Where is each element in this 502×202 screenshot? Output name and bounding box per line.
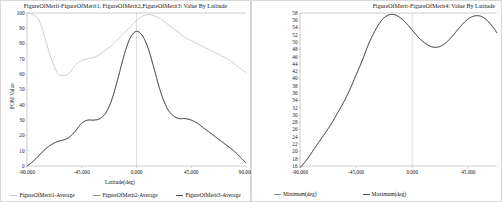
svg-text:0: 0 bbox=[22, 163, 25, 169]
legend-right: Minimum(deg) Maximum(deg) bbox=[252, 191, 502, 197]
svg-text:45.000: 45.000 bbox=[461, 169, 476, 175]
svg-text:30: 30 bbox=[19, 117, 25, 123]
legend-label: FigureOfMerit2-Average bbox=[102, 192, 157, 198]
legend-item[interactable]: FigureOfMerit3-Average bbox=[176, 192, 240, 198]
legend-label: Maximum(deg) bbox=[372, 191, 407, 197]
svg-text:16: 16 bbox=[292, 163, 298, 169]
chart-panel-right: FigureOfMerit-FigureOfMerit4: Value By L… bbox=[251, 0, 502, 202]
svg-text:22: 22 bbox=[292, 141, 298, 147]
dual-chart-view: FigureOfMerit-FigureOfMerit1, FigureOfMe… bbox=[0, 0, 502, 202]
svg-text:24: 24 bbox=[292, 134, 298, 140]
legend-item[interactable]: Minimum(deg) bbox=[274, 191, 317, 197]
y-axis-label-left: FOM Value bbox=[9, 83, 15, 109]
svg-text:40: 40 bbox=[19, 102, 25, 108]
svg-text:0.000: 0.000 bbox=[406, 169, 418, 175]
svg-text:38: 38 bbox=[292, 83, 298, 89]
svg-text:40: 40 bbox=[292, 75, 298, 81]
svg-text:48: 48 bbox=[292, 46, 298, 52]
svg-text:50: 50 bbox=[19, 86, 25, 92]
plot-svg-left: 0102030405060708090100-90.000-45.0000.00… bbox=[1, 1, 252, 202]
svg-text:44: 44 bbox=[292, 61, 298, 67]
svg-text:-45.000: -45.000 bbox=[348, 169, 364, 175]
svg-text:45.000: 45.000 bbox=[184, 169, 199, 175]
svg-text:50: 50 bbox=[292, 39, 298, 45]
svg-text:32: 32 bbox=[292, 105, 298, 111]
svg-text:34: 34 bbox=[292, 97, 298, 103]
legend-label: FigureOfMerit3-Average bbox=[185, 192, 240, 198]
plot-area-right: 1618202224262830323436384042444648505254… bbox=[252, 1, 501, 201]
svg-text:-45.000: -45.000 bbox=[74, 169, 90, 175]
legend-item[interactable]: FigureOfMerit1-Average bbox=[10, 192, 74, 198]
svg-text:18: 18 bbox=[292, 156, 298, 162]
legend-swatch-icon bbox=[363, 194, 370, 195]
legend-swatch-icon bbox=[93, 195, 100, 196]
svg-text:-90.000: -90.000 bbox=[292, 169, 308, 175]
svg-text:20: 20 bbox=[19, 132, 25, 138]
svg-text:-90.000: -90.000 bbox=[19, 169, 35, 175]
legend-swatch-icon bbox=[10, 195, 17, 196]
svg-text:28: 28 bbox=[292, 119, 298, 125]
svg-text:10: 10 bbox=[19, 148, 25, 154]
svg-text:30: 30 bbox=[292, 112, 298, 118]
svg-text:36: 36 bbox=[292, 90, 298, 96]
legend-label: FigureOfMerit1-Average bbox=[19, 192, 74, 198]
legend-swatch-icon bbox=[274, 194, 281, 195]
plot-area-left: 0102030405060708090100-90.000-45.0000.00… bbox=[1, 1, 250, 201]
svg-text:46: 46 bbox=[292, 54, 298, 60]
svg-text:20: 20 bbox=[292, 148, 298, 154]
svg-text:52: 52 bbox=[292, 32, 298, 38]
svg-text:58: 58 bbox=[292, 10, 298, 16]
svg-text:54: 54 bbox=[292, 24, 298, 30]
svg-text:90: 90 bbox=[19, 25, 25, 31]
legend-swatch-icon bbox=[176, 195, 183, 196]
chart-panel-left: FigureOfMerit-FigureOfMerit1, FigureOfMe… bbox=[0, 0, 251, 202]
plot-svg-right: 1618202224262830323436384042444648505254… bbox=[252, 1, 502, 202]
svg-text:56: 56 bbox=[292, 17, 298, 23]
legend-left: FigureOfMerit1-Average FigureOfMerit2-Av… bbox=[1, 192, 250, 198]
x-axis-label-left: Latitude(deg) bbox=[105, 179, 135, 185]
svg-text:0.000: 0.000 bbox=[131, 169, 143, 175]
legend-item[interactable]: Maximum(deg) bbox=[363, 191, 407, 197]
svg-text:100: 100 bbox=[17, 10, 25, 16]
svg-text:42: 42 bbox=[292, 68, 298, 74]
svg-text:70: 70 bbox=[19, 56, 25, 62]
legend-item[interactable]: FigureOfMerit2-Average bbox=[93, 192, 157, 198]
svg-text:60: 60 bbox=[19, 71, 25, 77]
svg-text:80: 80 bbox=[19, 40, 25, 46]
legend-label: Minimum(deg) bbox=[283, 191, 317, 197]
svg-text:26: 26 bbox=[292, 126, 298, 132]
